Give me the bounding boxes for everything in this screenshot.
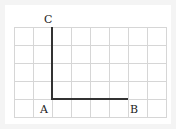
grid xyxy=(15,28,167,118)
point-label-a: A xyxy=(40,104,48,115)
point-label-c: C xyxy=(44,14,52,25)
point-label-b: B xyxy=(130,104,138,115)
grid-diagram xyxy=(0,0,176,129)
